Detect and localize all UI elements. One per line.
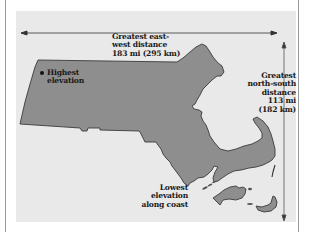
highest-elevation-label: Highest elevation [47,69,84,86]
monomoy-shape [272,165,275,177]
label-line: elevation [47,77,84,85]
label-line: (182 km) [236,106,296,114]
lowest-elevation-label: Lowest elevation along coast [130,184,188,209]
nantucket-shape [256,196,277,212]
tuckernuck-island [247,203,253,205]
mainland-shape [20,44,275,186]
east-west-distance-label: Greatest east- west distance 183 mi (295… [112,33,180,58]
elizabeth-islands [202,180,216,190]
marthas-vineyard-shape [213,186,246,205]
north-south-distance-label: Greatest north-south distance 113 mi (18… [236,72,296,114]
label-line: along coast [130,201,188,209]
north-south-arrow [282,42,286,221]
label-line: 183 mi (295 km) [112,50,180,58]
small-island [248,188,252,190]
highest-elevation-marker [40,71,44,75]
